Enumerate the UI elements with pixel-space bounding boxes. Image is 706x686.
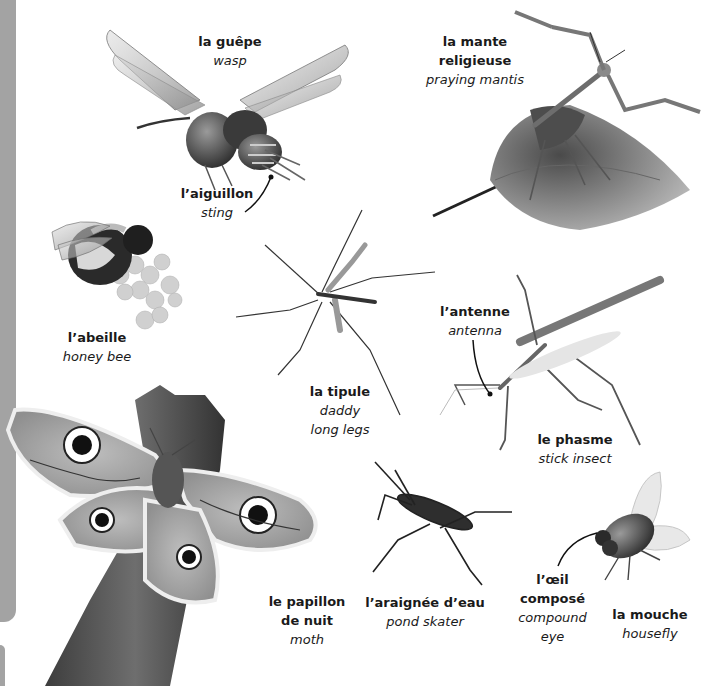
label-sting-fr: l’aiguillon — [172, 184, 262, 203]
label-cranefly-en-2: long legs — [295, 420, 385, 439]
label-sting: l’aiguillon sting — [172, 184, 262, 222]
label-mantis-fr-2: religieuse — [420, 51, 530, 70]
label-pond-skater: l’araignée d’eau pond skater — [365, 593, 485, 631]
label-moth-fr-1: le papillon — [262, 592, 352, 611]
label-stick-insect: le phasme stick insect — [525, 430, 625, 468]
housefly-illustration — [594, 472, 690, 580]
label-mantis-en: praying mantis — [420, 70, 530, 89]
label-bee-en: honey bee — [52, 347, 142, 366]
label-cranefly-en-1: daddy — [295, 401, 385, 420]
label-stick-insect-fr: le phasme — [525, 430, 625, 449]
label-compound-eye: l’œil composé compound eye — [510, 570, 595, 646]
label-moth-en: moth — [262, 630, 352, 649]
label-moth: le papillon de nuit moth — [262, 592, 352, 649]
label-cranefly-fr: la tipule — [295, 382, 385, 401]
label-wasp-en: wasp — [190, 51, 270, 70]
label-compound-eye-fr-2: composé — [510, 589, 595, 608]
label-compound-eye-en-2: eye — [510, 627, 595, 646]
label-pond-skater-en: pond skater — [365, 612, 485, 631]
label-housefly: la mouche housefly — [605, 605, 695, 643]
label-sting-en: sting — [172, 203, 262, 222]
label-mantis-fr-1: la mante — [420, 32, 530, 51]
label-mantis: la mante religieuse praying mantis — [420, 32, 530, 89]
label-bee: l’abeille honey bee — [52, 328, 142, 366]
label-antenna: l’antenne antenna — [435, 302, 515, 340]
label-wasp-fr: la guêpe — [190, 32, 270, 51]
label-moth-fr-2: de nuit — [262, 611, 352, 630]
compound-eye-leader-line — [558, 533, 597, 566]
label-pond-skater-fr: l’araignée d’eau — [365, 593, 485, 612]
label-housefly-en: housefly — [605, 624, 695, 643]
label-housefly-fr: la mouche — [605, 605, 695, 624]
label-bee-fr: l’abeille — [52, 328, 142, 347]
bee-on-flower-illustration — [52, 222, 182, 329]
label-antenna-fr: l’antenne — [435, 302, 515, 321]
label-antenna-en: antenna — [435, 321, 515, 340]
label-compound-eye-en-1: compound — [510, 608, 595, 627]
pond-skater-illustration — [373, 462, 512, 585]
label-cranefly: la tipule daddy long legs — [295, 382, 385, 439]
label-stick-insect-en: stick insect — [525, 449, 625, 468]
label-compound-eye-fr-1: l’œil — [510, 570, 595, 589]
label-wasp: la guêpe wasp — [190, 32, 270, 70]
